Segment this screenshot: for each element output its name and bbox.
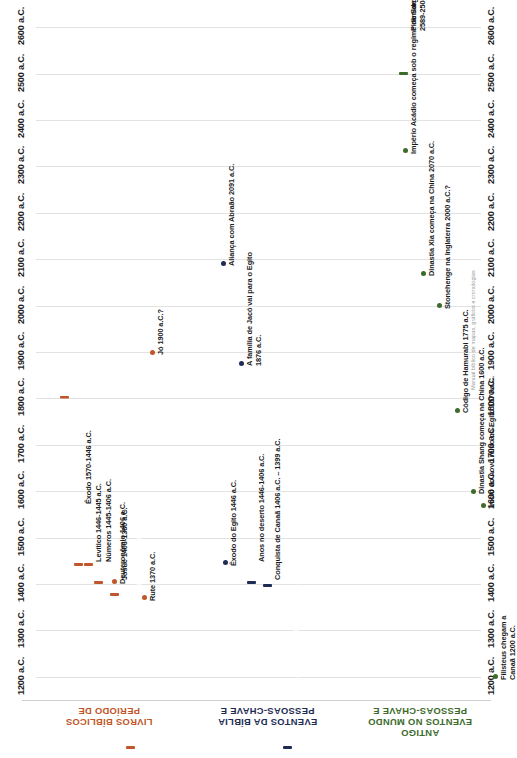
timeline-bar[interactable]	[60, 396, 69, 399]
row-title-line: EVENTOS DA BÍBLIA	[190, 717, 345, 728]
timeline-point-label: Êxodo do Egito 1446 a.C.	[230, 480, 239, 566]
timeline-point-marker[interactable]	[455, 408, 460, 413]
row-title-line: PESSOAS-CHAVE E	[190, 706, 345, 717]
timeline-point-marker[interactable]	[239, 361, 244, 366]
timeline-bar[interactable]	[283, 746, 292, 749]
timeline-bar-label: Juízes 1356-1050 a.C.	[134, 527, 143, 601]
timeline-point-label: Dinastia Shang começa na China 1600 a.C.	[478, 348, 487, 494]
timeline-point-marker[interactable]	[421, 271, 426, 276]
row-title-eventos-mundo: ANTIGOEVENTOS NO MUNDOPESSOAS-CHAVE E	[345, 706, 495, 739]
timeline-bar-label: Números 1445-1406 a.C.	[104, 479, 113, 562]
axis-baseline	[22, 700, 491, 701]
row-title-eventos-biblia: EVENTOS DA BÍBLIAPESSOAS-CHAVE E	[190, 706, 345, 728]
row-title-line: ANTIGO	[345, 728, 495, 739]
timeline-bar-label: Êxodo 1570-1446 a.C.	[84, 431, 93, 505]
timeline-point-marker[interactable]	[437, 303, 442, 308]
timeline-bar[interactable]	[263, 584, 272, 587]
timeline-bar[interactable]	[110, 593, 119, 596]
timeline-point-marker[interactable]	[471, 489, 476, 494]
timeline-point-label: Dinastia Xia começa na China 2070 a.C.	[428, 141, 437, 276]
timeline-point-label: Início do novo reino no Egito 1570 a.C.	[488, 376, 497, 508]
timeline-point-label: A família de Jacó vai para o Egito1876 a…	[246, 252, 263, 366]
row-title-livros-biblicos: LIVROS BÍBLICOSPERÍODO DE	[34, 706, 184, 728]
timeline-point-marker[interactable]	[150, 350, 155, 355]
axis-tick-label: 2600 a.C.	[16, 0, 26, 71]
timeline-point-label: Jó 1900 a.C.?	[157, 309, 166, 355]
timeline-bar[interactable]	[74, 563, 83, 566]
axis-left: 1200 a.C.1300 a.C.1400 a.C.1500 a.C.1600…	[10, 0, 36, 700]
timeline-bar-label: Os juízes governam Israel 1156- 1050 a.C…	[291, 551, 300, 693]
timeline-point-label: Filisteus chegam aCanaã 1200 a.C.	[500, 615, 517, 679]
timeline-point-marker[interactable]	[403, 148, 408, 153]
timeline-bar-label: Anos no deserto 1446-1406 a.C.	[257, 453, 266, 561]
timeline-bar[interactable]	[399, 72, 408, 75]
timeline-bar[interactable]	[126, 746, 135, 749]
timeline-bar-label: Levítico 1446-1445 a.C.	[94, 483, 103, 562]
timeline-bar[interactable]	[84, 563, 93, 566]
credit-text: Manual bíblico de mapas, gráficos e cron…	[470, 270, 476, 390]
timeline-point-marker[interactable]	[223, 560, 228, 565]
row-title-line: PERÍODO DE	[34, 706, 184, 717]
timeline-point-label: Stonehenge na Inglaterra 2000 a.C.?	[444, 185, 453, 309]
timeline-point-label: Império Acádio começa sob o regime de Sa…	[410, 0, 419, 154]
row-title-line: EVENTOS NO MUNDO	[345, 717, 495, 728]
timeline-point-marker[interactable]	[142, 595, 147, 600]
row-title-line: PESSOAS-CHAVE E	[345, 706, 495, 717]
timeline-point-marker[interactable]	[112, 579, 117, 584]
timeline-point-marker[interactable]	[481, 503, 486, 508]
timeline-bar-label: Conquista de Canaã 1406 a.C. – 1399 a.C.	[273, 439, 282, 580]
timeline-bar[interactable]	[247, 581, 256, 584]
timeline-point-label: Aliança com Abraão 2091 a.C.	[228, 164, 237, 266]
timeline-bar[interactable]	[94, 581, 103, 584]
timeline-bar-label: Origem de Gênesis – 1805 a.C.	[68, 0, 77, 23]
axis-tick-label: 2600 a.C.	[486, 0, 496, 71]
row-title-line: LIVROS BÍBLICOS	[34, 717, 184, 728]
timeline-point-label: Deuteronômio 1406 a.C.	[119, 502, 128, 584]
plot-area: Origem de Gênesis – 1805 a.C.Êxodo 1570-…	[36, 0, 481, 700]
timeline-point-label: Rute 1370 a.C.	[149, 552, 158, 601]
timeline-point-marker[interactable]	[221, 261, 226, 266]
